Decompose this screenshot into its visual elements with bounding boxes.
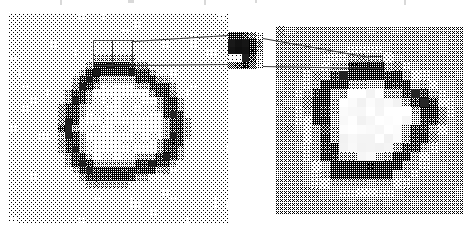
magnified-pixel-inset — [228, 32, 263, 69]
magnified-pixel-canvas — [228, 32, 263, 69]
text-descender-artifact-5 — [404, 0, 406, 5]
text-descender-artifact-3 — [204, 0, 206, 5]
clipped-text-artifacts — [0, 0, 466, 10]
left-callout-box — [93, 40, 133, 66]
processed-image-canvas — [276, 26, 463, 214]
text-descender-artifact-1 — [60, 0, 62, 5]
processed-image-panel — [276, 26, 463, 214]
text-descender-artifact-4 — [255, 0, 257, 3]
right-callout-box — [368, 56, 383, 69]
left-callout-divider — [112, 40, 113, 66]
text-descender-artifact-2 — [128, 0, 134, 3]
figure-root — [0, 0, 466, 232]
